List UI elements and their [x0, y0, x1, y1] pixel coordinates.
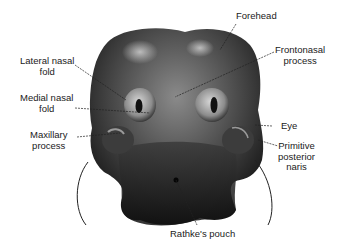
label-lateral-nasal-fold: Lateral nasal fold	[20, 56, 74, 77]
label-eye: Eye	[281, 121, 297, 132]
left-cut-arc	[77, 162, 88, 225]
right-cut-arc	[255, 160, 272, 225]
label-primitive-posterior-naris: Primitive posterior naris	[278, 141, 315, 173]
label-medial-nasal-fold: Medial nasal fold	[20, 93, 73, 114]
label-rathkes-pouch: Rathke's pouch	[170, 229, 235, 240]
label-frontonasal-process: Frontonasal process	[275, 45, 325, 66]
label-forehead: Forehead	[236, 11, 277, 22]
label-maxillary-process: Maxillary process	[30, 130, 67, 151]
